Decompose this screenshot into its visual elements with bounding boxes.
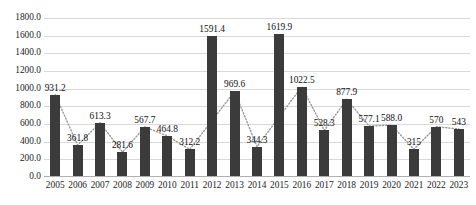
x-tick-label: 2017: [315, 181, 334, 190]
x-tick-label: 2006: [68, 181, 87, 190]
x-tick-label: 2005: [46, 181, 65, 190]
y-tick-label: 1800.0: [0, 13, 41, 22]
x-tick-label: 2010: [158, 181, 177, 190]
x-tick-label: 2019: [360, 181, 379, 190]
x-tick-label: 2011: [181, 181, 199, 190]
y-tick-label: 1200.0: [0, 66, 41, 75]
x-tick-label: 2007: [91, 181, 110, 190]
x-tick-label: 2023: [449, 181, 468, 190]
x-tick-label: 2020: [382, 181, 401, 190]
y-tick-label: 800.0: [0, 102, 41, 111]
x-tick-label: 2018: [337, 181, 356, 190]
bar-chart: 1800.01600.01400.01200.01000.0800.0600.0…: [0, 0, 476, 205]
y-tick-label: 1400.0: [0, 49, 41, 58]
x-tick-label: 2008: [113, 181, 132, 190]
y-tick-label: 1600.0: [0, 31, 41, 40]
x-tick-label: 2021: [405, 181, 424, 190]
x-tick-label: 2014: [248, 181, 267, 190]
x-axis-tick-labels: 2005200620072008200920102011201220132014…: [44, 0, 470, 205]
y-tick-label: 600.0: [0, 119, 41, 128]
x-tick-label: 2009: [136, 181, 155, 190]
x-tick-label: 2013: [225, 181, 244, 190]
x-tick-label: 2022: [427, 181, 446, 190]
y-tick-label: 400.0: [0, 137, 41, 146]
y-tick-label: 200.0: [0, 155, 41, 164]
y-tick-label: 1000.0: [0, 84, 41, 93]
y-tick-label: 0.0: [0, 172, 41, 181]
x-tick-label: 2012: [203, 181, 222, 190]
x-tick-label: 2016: [292, 181, 311, 190]
x-tick-label: 2015: [270, 181, 289, 190]
